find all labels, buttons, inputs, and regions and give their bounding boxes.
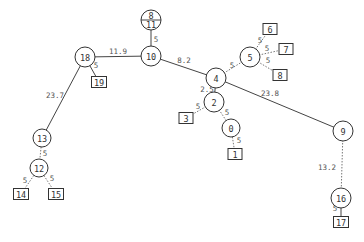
edge-weight-label: 23.7 xyxy=(46,91,64,100)
node-19: 19 xyxy=(92,77,107,88)
node-label: 0 xyxy=(228,124,233,134)
node-label: 9 xyxy=(340,127,345,137)
tree-diagram: 511.9523.75558.255552.555523.813.25 8111… xyxy=(0,0,364,242)
node-label: 13 xyxy=(37,134,47,144)
edge-weight-label: 5 xyxy=(50,174,55,183)
edge-weight-label: 5 xyxy=(230,61,235,70)
node-8_11: 811 xyxy=(141,10,161,30)
node-9: 9 xyxy=(333,121,353,141)
edge-weight-label: 5 xyxy=(258,36,263,45)
node-3: 3 xyxy=(179,113,193,124)
node-label: 14 xyxy=(16,190,26,200)
edge-weight-label: 11.9 xyxy=(109,47,127,56)
node-label: 17 xyxy=(336,218,346,228)
node-label: 8 xyxy=(277,71,282,81)
edge-weight-label: 5 xyxy=(94,61,99,70)
node-label-top: 8 xyxy=(148,11,153,21)
node-label: 10 xyxy=(146,52,156,62)
edge-weight-label: 5 xyxy=(265,44,270,53)
node-label: 7 xyxy=(283,45,288,55)
node-label-bottom: 11 xyxy=(146,20,156,30)
node-label: 19 xyxy=(94,78,104,88)
edge-weight-label: 23.8 xyxy=(261,89,280,98)
node-10: 10 xyxy=(141,46,161,66)
edge-weight-label: 5 xyxy=(23,176,28,185)
node-13: 13 xyxy=(33,129,51,147)
edge-weight-label: 8.2 xyxy=(177,56,191,65)
node-14: 14 xyxy=(14,189,29,200)
node-2: 2 xyxy=(204,92,224,112)
node-16: 16 xyxy=(331,188,351,208)
node-1: 1 xyxy=(228,149,242,160)
nodes-layer: 8111018191312141545678230191617 xyxy=(14,10,354,228)
node-label: 5 xyxy=(247,53,252,63)
node-6: 6 xyxy=(263,24,277,35)
edge-weight-label: 5 xyxy=(225,108,230,117)
node-label: 15 xyxy=(51,190,61,200)
node-label: 6 xyxy=(267,25,272,35)
node-7: 7 xyxy=(279,44,293,55)
node-5: 5 xyxy=(240,47,260,67)
node-label: 3 xyxy=(183,114,188,124)
edge-weight-label: 13.2 xyxy=(318,163,336,172)
edge-weight-label: 5 xyxy=(237,136,242,145)
node-15: 15 xyxy=(49,189,64,200)
edge-weight-label: 5 xyxy=(43,149,48,158)
node-label: 12 xyxy=(34,164,44,174)
edge-weight-label: 5 xyxy=(154,35,159,44)
node-label: 2 xyxy=(211,98,216,108)
node-8: 8 xyxy=(273,70,287,81)
node-18: 18 xyxy=(75,47,95,67)
node-label: 1 xyxy=(232,150,237,160)
edge-weight-label: 5 xyxy=(266,56,271,65)
node-12: 12 xyxy=(30,159,48,177)
node-label: 4 xyxy=(213,74,218,84)
edge-weight-label: 5 xyxy=(196,102,201,111)
node-label: 18 xyxy=(80,53,90,63)
node-17: 17 xyxy=(334,217,349,228)
node-label: 16 xyxy=(336,194,346,204)
node-4: 4 xyxy=(206,68,226,88)
node-0: 0 xyxy=(222,119,240,137)
